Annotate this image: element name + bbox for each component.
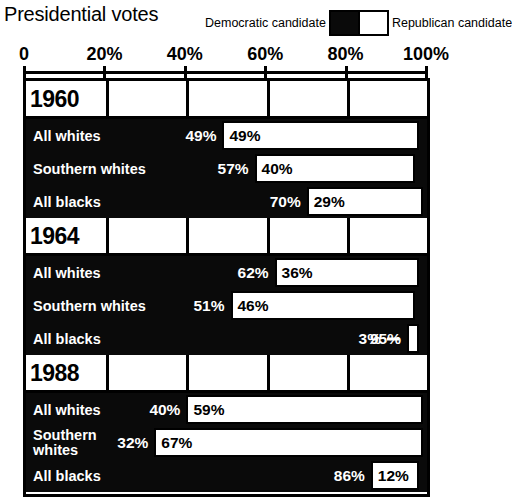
democratic-value-label: 32% xyxy=(117,434,148,452)
chart-row: All whites40%59% xyxy=(26,393,427,426)
grid-line xyxy=(186,81,189,116)
legend-swatch-republican-icon xyxy=(358,12,387,34)
section-rows: All whites40%59%Southern whites32%67%All… xyxy=(26,393,427,492)
chart-section-1960: 1960All whites49%49%Southern whites57%40… xyxy=(26,81,427,218)
republican-value-label: 59% xyxy=(193,401,224,419)
democratic-value-label: 62% xyxy=(238,264,269,282)
year-label: 1988 xyxy=(30,359,82,386)
republican-value-label: 49% xyxy=(229,127,260,145)
democratic-value-label: 86% xyxy=(334,467,365,485)
page-title: Presidential votes xyxy=(4,3,158,26)
year-label: 1960 xyxy=(30,85,82,112)
republican-value-label: 67% xyxy=(161,434,192,452)
row-category-label: Southern whites xyxy=(33,161,146,176)
legend-label-democratic: Democratic candidate xyxy=(205,17,326,30)
grid-line xyxy=(267,81,270,116)
row-category-label: All whites xyxy=(33,402,101,417)
axis-tick-mark xyxy=(345,66,348,78)
republican-bar xyxy=(154,428,423,457)
row-category-label: All whites xyxy=(33,128,101,143)
axis-tick-label: 80% xyxy=(328,44,364,65)
republican-value-label: 36% xyxy=(282,264,313,282)
row-category-label: Southern whites xyxy=(33,298,146,313)
axis-tick-label: 60% xyxy=(247,44,283,65)
x-axis: 020%40%60%80%100% xyxy=(0,44,474,78)
democratic-value-label: 40% xyxy=(149,401,180,419)
republican-bar xyxy=(407,324,419,353)
chart-row: All blacks70%29% xyxy=(26,185,427,218)
grid-line xyxy=(347,355,350,390)
chart-row: Southern whites57%40% xyxy=(26,152,427,185)
section-header: 1960 xyxy=(26,81,427,119)
chart-header: Presidential votes Democratic candidate … xyxy=(0,0,474,46)
row-category-label: Southern whites xyxy=(33,428,97,458)
democratic-value-label: 70% xyxy=(270,193,301,211)
democratic-value-label: 51% xyxy=(193,297,224,315)
republican-value-label: 29% xyxy=(314,193,345,211)
row-category-label: All blacks xyxy=(33,194,101,209)
grid-line xyxy=(347,81,350,116)
republican-value-label: 3% xyxy=(359,330,381,348)
axis-tick-label: 0 xyxy=(19,44,29,65)
axis-tick-mark xyxy=(103,66,106,78)
democratic-value-label: 49% xyxy=(185,127,216,145)
chart-row: All blacks86%12% xyxy=(26,459,427,492)
chart-plot-area: 1960All whites49%49%Southern whites57%40… xyxy=(23,78,430,497)
chart-row: Southern whites51%46% xyxy=(26,289,427,322)
legend-swatches xyxy=(329,10,389,36)
grid-line xyxy=(347,218,350,253)
row-category-label: All whites xyxy=(33,265,101,280)
section-header: 1964 xyxy=(26,218,427,256)
chart-row: All whites62%36% xyxy=(26,256,427,289)
section-header: 1988 xyxy=(26,355,427,393)
axis-line xyxy=(24,71,426,74)
axis-tick-mark xyxy=(23,66,26,78)
democratic-value-label: 57% xyxy=(218,160,249,178)
legend-label-republican: Republican candidate xyxy=(392,17,512,30)
year-label: 1964 xyxy=(30,222,82,249)
grid-line xyxy=(186,355,189,390)
chart-row: All blacks95%3% xyxy=(26,322,427,355)
grid-line xyxy=(106,355,109,390)
grid-line xyxy=(267,218,270,253)
section-rows: All whites49%49%Southern whites57%40%All… xyxy=(26,119,427,218)
row-category-label: All blacks xyxy=(33,468,101,483)
chart-section-1988: 1988All whites40%59%Southern whites32%67… xyxy=(26,355,427,492)
grid-line xyxy=(186,218,189,253)
republican-value-label: 40% xyxy=(262,160,293,178)
leader-line xyxy=(387,337,399,340)
axis-tick-mark xyxy=(425,66,428,78)
grid-line xyxy=(267,355,270,390)
axis-tick-label: 20% xyxy=(86,44,122,65)
legend: Democratic candidate Republican candidat… xyxy=(205,4,512,42)
republican-value-label: 46% xyxy=(238,297,269,315)
chart-section-1964: 1964All whites62%36%Southern whites51%46… xyxy=(26,218,427,355)
row-category-label: All blacks xyxy=(33,331,101,346)
axis-tick-mark xyxy=(264,66,267,78)
legend-swatch-democratic-icon xyxy=(331,12,358,34)
axis-tick-mark xyxy=(184,66,187,78)
chart-row: Southern whites32%67% xyxy=(26,426,427,459)
axis-tick-label: 40% xyxy=(167,44,203,65)
grid-line xyxy=(106,81,109,116)
axis-tick-label: 100% xyxy=(403,44,449,65)
chart-row: All whites49%49% xyxy=(26,119,427,152)
republican-value-label: 12% xyxy=(378,467,409,485)
section-rows: All whites62%36%Southern whites51%46%All… xyxy=(26,256,427,355)
grid-line xyxy=(106,218,109,253)
